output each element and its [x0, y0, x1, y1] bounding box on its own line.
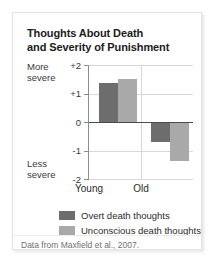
page-title: Thoughts About Death and Severity of Pun…	[27, 27, 195, 54]
bar-young-unconscious	[118, 79, 137, 122]
axis-caption-more-severe-line-2: severe	[27, 72, 56, 83]
y-tick-label-2: +2	[55, 61, 81, 70]
legend-swatch-unconscious-icon	[59, 226, 75, 235]
axis-area	[89, 65, 193, 179]
y-tick-label-minus-1: -1	[55, 146, 81, 155]
source-note: Data from Maxfield et al., 2007.	[21, 240, 139, 250]
legend-swatch-overt-icon	[59, 211, 75, 220]
gridline-minus-2	[89, 179, 193, 180]
x-tick-label-young: Young	[61, 183, 117, 194]
bar-young-overt	[99, 83, 118, 122]
x-tick-label-old: Old	[113, 183, 169, 194]
legend-item-overt: Overt death thoughts	[59, 209, 199, 222]
axis-caption-more-severe-line-1: More	[27, 61, 49, 72]
chart-title-line-2: and Severity of Punishment	[27, 41, 169, 53]
chart-title-line-1: Thoughts About Death	[27, 27, 143, 39]
axis-caption-less-severe-line-2: severe	[27, 169, 56, 180]
legend-label-overt: Overt death thoughts	[81, 210, 170, 221]
plot-area: More severe Less severe +2 +1 0 -1 -2	[13, 57, 203, 205]
zero-baseline	[89, 122, 193, 123]
bar-old-unconscious	[170, 122, 189, 161]
axis-caption-less-severe-line-1: Less	[27, 158, 47, 169]
y-tick-label-0: 0	[55, 118, 81, 127]
figure-card: Thoughts About Death and Severity of Pun…	[12, 12, 202, 250]
y-tick-label-1: +1	[55, 89, 81, 98]
source-divider	[13, 235, 201, 236]
bar-old-overt	[151, 122, 170, 142]
